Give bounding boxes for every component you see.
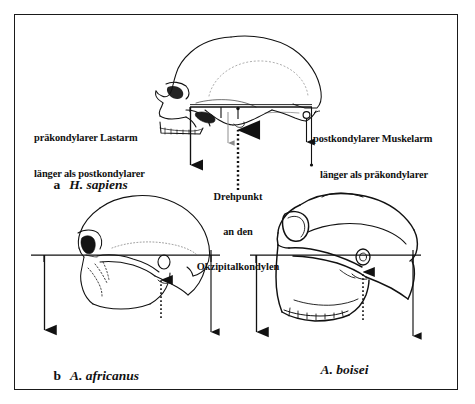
right-label-line1: postkondylarer Muskelarm [313, 133, 432, 145]
species-name-c: A. boisei [321, 362, 369, 377]
center-label-line3: Okzipitalkondylen [186, 261, 290, 273]
species-name-b: A. africanus [70, 368, 139, 383]
label-drehpunkt-okzipitalkondylen: Drehpunkt an den Okzipitalkondylen [186, 168, 290, 296]
caption-panel-b: bA. africanus [40, 352, 139, 400]
right-label-line2: länger als präkondylarer [313, 169, 432, 181]
panel-letter-a: a [54, 177, 61, 192]
panel-letter-b: b [54, 368, 62, 383]
caption-panel-c: A. boisei [307, 346, 369, 394]
anatomical-figure: präkondylarer Lastarm länger als postkon… [0, 0, 475, 404]
caption-panel-a: aH. sapiens [40, 161, 128, 209]
label-postkondylarer-muskelarm: postkondylarer Muskelarm länger als präk… [313, 108, 432, 206]
center-label-line1: Drehpunkt [186, 191, 290, 203]
species-name-a: H. sapiens [69, 177, 128, 192]
center-label-line2: an den [186, 226, 290, 238]
left-label-line1: präkondylarer Lastarm [34, 132, 145, 144]
